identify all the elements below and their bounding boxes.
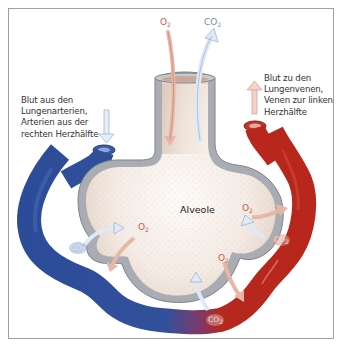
- outflow-arrow: [247, 81, 262, 114]
- alveole-label: Alveole: [180, 204, 215, 215]
- caption-inflow: Blut aus den Lungenarterien, Arterien au…: [21, 95, 98, 140]
- caption-outflow-line: Herzhälfte: [264, 107, 333, 118]
- caption-inflow-line: Blut aus den: [21, 95, 98, 106]
- gas-label-left-co2: CO2: [70, 243, 85, 253]
- gas-label-bottom-o2: O2: [218, 253, 229, 264]
- caption-inflow-line: Lungenarterien,: [21, 106, 98, 117]
- inflow-arrow: [99, 110, 114, 143]
- caption-inflow-line: Arterien aus der: [21, 117, 98, 128]
- caption-inflow-line: rechten Herzhälfte: [21, 129, 98, 140]
- gas-label-right-co2: CO2: [274, 235, 289, 245]
- caption-outflow-line: Lungenvenen,: [264, 84, 333, 95]
- gas-label-left-o2: O2: [138, 222, 149, 233]
- gas-label-top-o2: O2: [160, 17, 171, 28]
- alveolus-diagram: [0, 0, 341, 347]
- gas-label-right-o2: O2: [242, 203, 253, 214]
- caption-outflow: Blut zu den Lungenvenen, Venen zur linke…: [264, 73, 333, 118]
- gas-label-bottom-co2: CO2: [208, 315, 223, 325]
- gas-label-top-co2: CO2: [204, 17, 221, 28]
- caption-outflow-line: Venen zur linken: [264, 95, 333, 106]
- caption-outflow-line: Blut zu den: [264, 73, 333, 84]
